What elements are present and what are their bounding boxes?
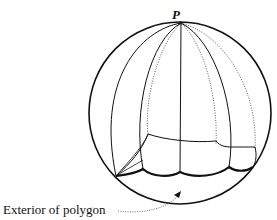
meridian-left bbox=[140, 23, 181, 169]
exterior-label: Exterior of polygon bbox=[3, 202, 106, 217]
meridian-center bbox=[180, 23, 181, 172]
front-meridians bbox=[111, 23, 231, 176]
meridian-back-right bbox=[181, 23, 216, 144]
sphere-polygon-diagram: P Exterior of polygon bbox=[0, 0, 277, 220]
pole-label: P bbox=[172, 7, 181, 22]
back-meridians bbox=[147, 23, 255, 148]
meridian-left-outer bbox=[111, 23, 181, 176]
meridian-back-far-right bbox=[181, 23, 255, 148]
arrow-head-icon bbox=[174, 191, 181, 198]
polygon-front-edge bbox=[116, 167, 253, 176]
